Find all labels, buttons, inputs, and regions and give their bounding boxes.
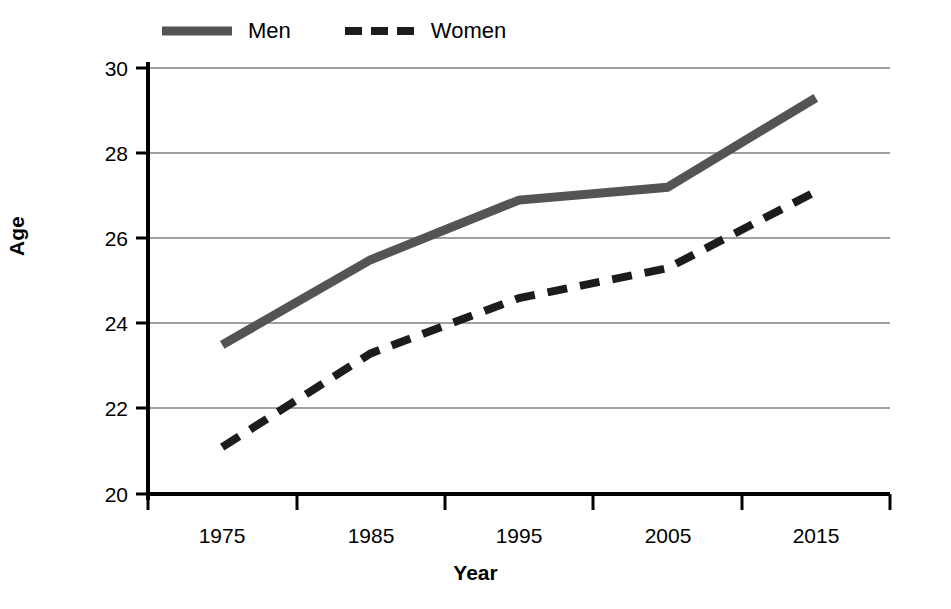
x-tick-1975: 1975	[199, 525, 246, 546]
x-axis-title: Year	[0, 562, 951, 583]
x-axis-ticks: 1975 1985 1995 2005 2015	[0, 0, 951, 609]
x-tick-2015: 2015	[793, 525, 840, 546]
x-tick-1995: 1995	[496, 525, 543, 546]
y-axis-title: Age	[6, 216, 27, 256]
chart-plot-area: 30 28 26 24 22 20 1975 1985 1995 2005 20…	[0, 0, 951, 609]
x-tick-1985: 1985	[348, 525, 395, 546]
x-tick-2005: 2005	[645, 525, 692, 546]
chart-page: Men Women	[0, 0, 951, 609]
